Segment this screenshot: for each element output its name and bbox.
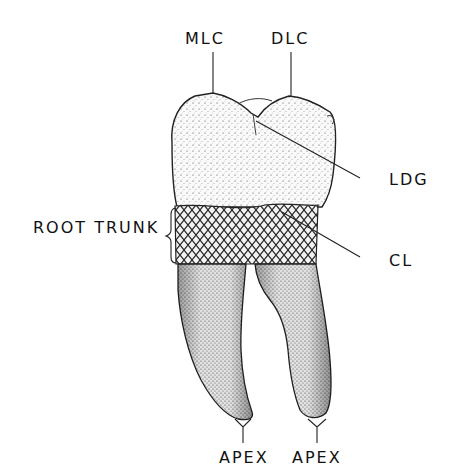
apex-distal-leader — [308, 419, 326, 443]
crown — [172, 93, 336, 207]
distal-root — [255, 264, 331, 418]
label-cl: CL — [389, 251, 413, 270]
label-dlc: DLC — [271, 29, 309, 48]
root-trunk-brace — [166, 208, 176, 263]
label-root-trunk: ROOT TRUNK — [33, 218, 159, 237]
root-trunk-region — [175, 204, 318, 264]
apex-mesial-leader — [235, 419, 251, 443]
mesial-root — [178, 264, 252, 420]
label-mlc: MLC — [185, 29, 225, 48]
label-apex-distal: APEX — [292, 448, 342, 467]
label-ldg: LDG — [389, 170, 429, 189]
label-apex-mesial: APEX — [219, 448, 269, 467]
